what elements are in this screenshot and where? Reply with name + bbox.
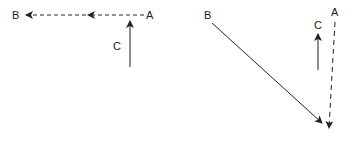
left-label-b: B — [12, 9, 19, 21]
vector-diagrams: B A C B A C — [0, 0, 352, 141]
right-diagram: B A C — [204, 6, 339, 128]
right-label-c: C — [314, 19, 322, 31]
right-vector-b — [212, 23, 322, 123]
left-label-a: A — [146, 9, 154, 21]
left-diagram: B A C — [12, 9, 154, 67]
right-label-a: A — [331, 6, 339, 18]
right-label-b: B — [204, 9, 211, 21]
left-label-c: C — [113, 40, 121, 52]
right-vector-a — [329, 22, 335, 128]
